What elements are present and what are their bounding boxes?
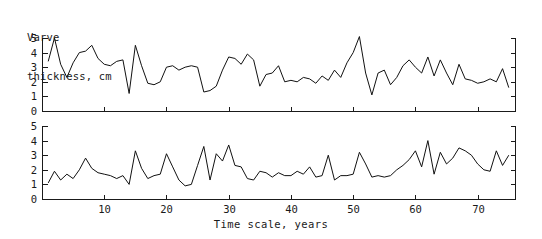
series-line [48,37,509,95]
x-tick-label: 60 [409,203,422,215]
x-tick-label: 70 [472,203,485,215]
y-tick-label: 2 [31,164,37,176]
y-tick-label: 4 [31,135,37,147]
y-axis-label-line-1: Varve [27,31,112,44]
y-tick-label: 5 [31,120,37,132]
y-tick-label: 0 [31,193,37,205]
y-axis-label: Varve thickness, cm [27,5,112,109]
x-tick-label: 30 [223,203,236,215]
x-tick-label: 10 [98,203,111,215]
series-line [48,141,509,186]
y-tick-label: 3 [31,149,37,161]
y-tick-label: 1 [31,178,37,190]
x-tick-label: 50 [347,203,360,215]
x-tick-label: 40 [285,203,298,215]
lower-panel: 01234510203040506070 [31,120,516,215]
x-tick-label: 20 [160,203,173,215]
y-axis-label-line-2: thickness, cm [27,70,112,83]
x-axis-label: Time scale, years [0,218,542,230]
varve-thickness-figure: Varve thickness, cm 01234501234510203040… [0,0,542,239]
